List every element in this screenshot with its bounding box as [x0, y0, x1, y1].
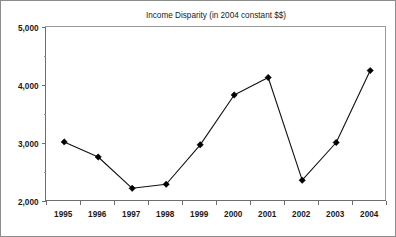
y-tick-label-5000: 5,000 [18, 24, 39, 33]
x-tick-label-2000: 2000 [224, 210, 243, 219]
x-tick-label-2002: 2002 [292, 210, 311, 219]
x-tick-label-1996: 1996 [88, 210, 107, 219]
chart-title: Income Disparity (in 2004 constant $$) [146, 11, 286, 20]
x-tick-label-1998: 1998 [156, 210, 175, 219]
income-disparity-line-chart: Income Disparity (in 2004 constant $$) 5… [1, 1, 396, 237]
x-tick-label-1995: 1995 [54, 210, 73, 219]
x-tick-label-1999: 1999 [190, 210, 209, 219]
y-tick-label-2000: 2,000 [18, 198, 39, 207]
x-axis-tick-labels: 1995199619971998199920002001200220032004 [54, 210, 379, 219]
y-tick-label-3000: 3,000 [18, 140, 39, 149]
y-axis-ticks [42, 28, 46, 202]
y-tick-label-4000: 4,000 [18, 82, 39, 91]
plot-area-frame [46, 27, 386, 201]
y-axis-tick-labels: 5,0004,0003,0002,000 [18, 24, 39, 207]
x-tick-label-2003: 2003 [326, 210, 345, 219]
x-axis-ticks [47, 201, 387, 205]
x-tick-label-1997: 1997 [122, 210, 141, 219]
x-tick-label-2004: 2004 [360, 210, 379, 219]
chart-figure: Income Disparity (in 2004 constant $$) 5… [0, 0, 396, 237]
x-tick-label-2001: 2001 [258, 210, 277, 219]
